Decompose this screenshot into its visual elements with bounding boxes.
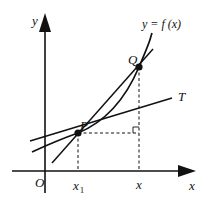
origin-label: O: [35, 176, 44, 189]
function-curve: [32, 33, 152, 152]
y-axis-arrow-icon: [39, 13, 51, 32]
point-q-label: Q: [128, 53, 137, 66]
x1-label-main: x: [73, 178, 79, 193]
tangent-label: T: [178, 90, 185, 103]
function-label: y = f (x): [142, 18, 181, 30]
right-angle-icon: [133, 127, 139, 133]
y-axis: [39, 13, 51, 193]
y-axis-label: y: [32, 14, 38, 27]
x1-label: x1: [73, 179, 84, 195]
secant-tangent-diagram: y x O y = f (x) P Q T x1 x: [0, 0, 212, 207]
point-p-label: P: [80, 119, 88, 132]
x-point-label: x: [136, 178, 142, 191]
x-axis-label: x: [189, 179, 195, 192]
x-axis-arrow-icon: [178, 165, 196, 177]
x1-label-subscript: 1: [80, 185, 85, 195]
